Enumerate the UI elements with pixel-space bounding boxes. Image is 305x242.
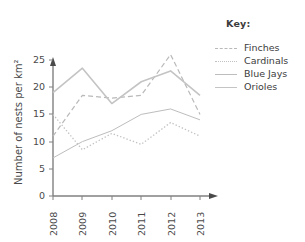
y-tick-label: 0 (39, 190, 45, 201)
legend-item-cardinals[interactable]: Cardinals (215, 55, 303, 66)
series-line-cardinals (53, 114, 200, 149)
legend-label-blue-jays: Blue Jays (244, 68, 287, 79)
y-tick-label: 5 (39, 163, 45, 174)
y-tick-labels: 25 20 15 10 5 0 (33, 54, 45, 201)
legend-item-blue-jays[interactable]: Blue Jays (215, 68, 303, 79)
y-axis (50, 57, 56, 196)
legend-label-orioles: Orioles (244, 81, 277, 92)
y-axis-arrow-icon (50, 57, 56, 66)
chart-page: 25 20 15 10 5 0 Number of nests per km² … (0, 0, 305, 242)
x-tick-label: 2008 (48, 212, 59, 236)
x-tick-label: 2013 (195, 212, 206, 236)
x-tick-label: 2012 (166, 212, 177, 236)
legend-item-orioles[interactable]: Orioles (215, 81, 303, 92)
x-tick-label: 2010 (107, 212, 118, 236)
x-axis-arrow-icon (209, 193, 218, 199)
series-layer (53, 55, 200, 158)
y-tick-label: 15 (33, 108, 45, 119)
series-line-orioles (53, 68, 200, 103)
legend-item-finches[interactable]: Finches (215, 42, 303, 53)
x-axis (53, 193, 218, 199)
x-tick-label: 2011 (136, 212, 147, 236)
y-tick-label: 25 (33, 54, 45, 65)
y-tick-label: 20 (33, 81, 45, 92)
legend-title: Key: (226, 18, 303, 29)
legend-label-finches: Finches (244, 42, 279, 53)
y-tick-label: 10 (33, 136, 45, 147)
x-tick-label: 2009 (77, 212, 88, 236)
legend: Key: Finches Cardinals Blue Jays Orioles (215, 18, 303, 94)
y-axis-title: Number of nests per km² (13, 59, 24, 185)
legend-label-cardinals: Cardinals (244, 55, 288, 66)
series-line-finches (53, 55, 200, 137)
series-line-blue-jays (53, 109, 200, 158)
x-tick-labels: 2008 2009 2010 2011 2012 2013 (48, 212, 206, 236)
